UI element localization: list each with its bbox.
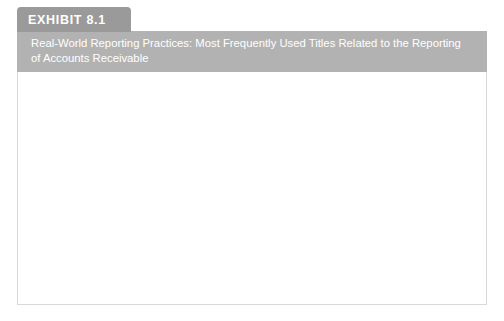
exhibit-title-banner: Real-World Reporting Practices: Most Fre…: [17, 31, 487, 72]
exhibit-number-tab: EXHIBIT 8.1: [17, 7, 131, 32]
exhibit-title-text: Real-World Reporting Practices: Most Fre…: [31, 36, 473, 65]
exhibit-number-label: EXHIBIT 8.1: [28, 13, 106, 27]
exhibit-figure: EXHIBIT 8.1 Real-World Reporting Practic…: [0, 0, 504, 321]
exhibit-body-panel: [17, 72, 487, 305]
